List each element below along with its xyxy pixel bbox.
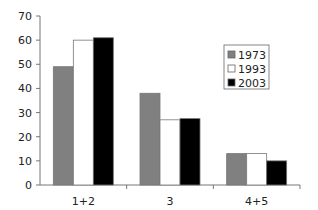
bar-1973-4+5 [227, 154, 247, 185]
category-label: 1+2 [72, 195, 95, 208]
bar-1973-1+2 [53, 67, 73, 185]
category-label: 4+5 [245, 195, 268, 208]
bar-2003-1+2 [93, 38, 113, 185]
y-tick-label: 20 [18, 131, 32, 144]
bar-2003-4+5 [267, 161, 287, 185]
y-tick-label: 60 [18, 34, 32, 47]
legend-label: 1973 [238, 49, 266, 62]
y-tick-label: 40 [18, 82, 32, 95]
y-tick-label: 30 [18, 107, 32, 120]
grouped-bar-chart: 010203040506070 1+234+5 197319932003 [0, 0, 318, 210]
bar-1993-1+2 [73, 40, 93, 185]
bar-1993-3 [160, 120, 180, 185]
x-axis: 1+234+5 [40, 185, 300, 208]
bar-1973-3 [140, 93, 160, 185]
legend-swatch-2003 [228, 79, 235, 86]
y-tick-label: 70 [18, 10, 32, 23]
legend-label: 2003 [238, 77, 266, 90]
bar-2003-3 [180, 119, 200, 185]
y-tick-label: 0 [25, 179, 32, 192]
legend-label: 1993 [238, 63, 266, 76]
category-label: 3 [167, 195, 174, 208]
legend-swatch-1973 [228, 51, 235, 58]
legend-swatch-1993 [228, 65, 235, 72]
legend: 197319932003 [224, 45, 269, 90]
y-axis: 010203040506070 [18, 10, 40, 192]
y-tick-label: 50 [18, 58, 32, 71]
y-tick-label: 10 [18, 155, 32, 168]
bar-1993-4+5 [247, 154, 267, 185]
